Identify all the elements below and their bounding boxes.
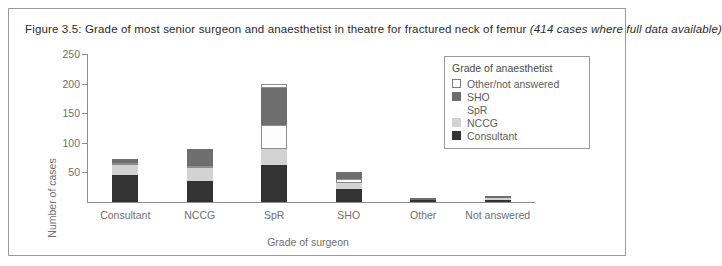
- y-tick-mark: [82, 172, 88, 173]
- bar-segment: [261, 149, 287, 166]
- x-axis-title: Grade of surgeon: [88, 236, 528, 248]
- legend-label: Other/not answered: [467, 78, 559, 90]
- legend-swatch: [452, 105, 461, 114]
- bar-segment: [485, 196, 511, 198]
- legend-row: Consultant: [452, 129, 582, 142]
- x-axis-line: [87, 202, 535, 203]
- bar-segment: [261, 84, 287, 88]
- bar-segment: [261, 165, 287, 202]
- chart-legend: Grade of anaesthetist Other/not answered…: [444, 56, 590, 149]
- bar-segment: [410, 200, 436, 202]
- bar-segment: [336, 179, 362, 183]
- legend-title: Grade of anaesthetist: [452, 62, 582, 74]
- y-tick-mark: [82, 143, 88, 144]
- y-tick-mark: [82, 113, 88, 114]
- legend-row: Other/not answered: [452, 77, 582, 90]
- legend-swatch: [452, 118, 461, 127]
- legend-row: SHO: [452, 90, 582, 103]
- bar-group: [187, 54, 213, 202]
- bar-segment: [485, 200, 511, 202]
- y-tick-mark: [82, 54, 88, 55]
- bar-segment: [112, 163, 138, 165]
- y-axis-title-wrap: Number of cases: [22, 92, 82, 152]
- bar-segment: [410, 198, 436, 200]
- legend-swatch: [452, 131, 461, 140]
- figure-title-main: Figure 3.5: Grade of most senior surgeon…: [25, 23, 530, 35]
- figure-title: Figure 3.5: Grade of most senior surgeon…: [25, 23, 615, 35]
- y-tick-label: 200: [36, 78, 80, 90]
- legend-label: Consultant: [467, 130, 517, 142]
- bar-group: [261, 54, 287, 202]
- y-axis-title: Number of cases: [46, 138, 58, 258]
- bar-segment: [261, 125, 287, 149]
- bar-segment: [261, 88, 287, 125]
- figure-title-note: (414 cases where full data available): [530, 23, 722, 35]
- legend-swatch: [452, 79, 461, 88]
- legend-swatch: [452, 92, 461, 101]
- legend-row: NCCG: [452, 116, 582, 129]
- bar-group: [336, 54, 362, 202]
- bar-segment: [336, 172, 362, 179]
- bar-segment: [187, 149, 213, 167]
- bar-segment: [336, 189, 362, 202]
- legend-label: SpR: [467, 104, 487, 116]
- legend-rows: Other/not answeredSHOSpRNCCGConsultant: [452, 77, 582, 142]
- bar-segment: [336, 183, 362, 189]
- y-tick-mark: [82, 84, 88, 85]
- y-tick-label: 250: [36, 48, 80, 60]
- legend-row: SpR: [452, 103, 582, 116]
- bar-segment: [187, 181, 213, 202]
- bar-group: [112, 54, 138, 202]
- bar-segment: [112, 165, 138, 176]
- y-axis-line: [87, 54, 88, 203]
- bar-segment: [112, 159, 138, 163]
- legend-label: SHO: [467, 91, 490, 103]
- y-tick-label: 50: [36, 166, 80, 178]
- x-tick-label: Not answered: [448, 209, 548, 221]
- bar-segment: [112, 175, 138, 202]
- legend-label: NCCG: [467, 117, 498, 129]
- bar-group: [410, 54, 436, 202]
- bar-segment: [187, 168, 213, 182]
